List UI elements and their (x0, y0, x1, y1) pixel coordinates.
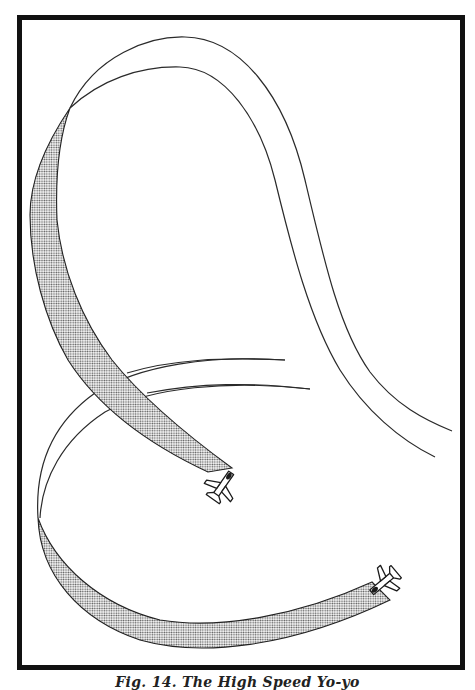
upper-loop-over-ribbon (127, 359, 310, 393)
upper-loop-outer-path (70, 37, 452, 431)
figure-caption: Fig. 14. The High Speed Yo-yo (0, 674, 475, 690)
lower-shaded-ribbon (38, 518, 390, 648)
upper-shaded-ribbon (30, 108, 232, 472)
